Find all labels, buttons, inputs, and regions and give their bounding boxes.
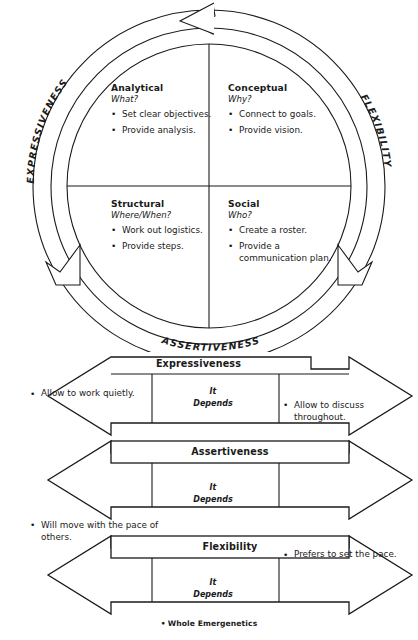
band-label-assertiveness: Assertiveness	[111, 446, 349, 457]
it-depends-line2: Depends	[152, 589, 274, 601]
it-depends-line2: Depends	[152, 398, 274, 410]
quadrant-title: Social	[228, 198, 336, 210]
arc-label-flexibility: FLEXIBILITY	[358, 92, 393, 169]
quadrant-item: Set clear objectives.	[111, 109, 219, 121]
quadrant-item: Provide a communication plan.	[228, 241, 336, 264]
quadrant-item: Provide steps.	[111, 241, 219, 253]
quadrant-question: Where/When?	[111, 210, 219, 221]
quadrant-structural: Structural Where/When? Work out logistic…	[111, 198, 219, 253]
band-cell-expressiveness-center: It Depends	[152, 386, 274, 410]
circle-model: EXPRESSIVENESS FLEXIBILITY ASSERTIVENESS…	[0, 0, 418, 352]
it-depends-line1: It	[152, 577, 274, 589]
quadrant-item: Create a roster.	[228, 225, 336, 237]
footnote-bullet-icon: •	[161, 619, 166, 628]
arrowhead-bottom-left	[46, 245, 80, 285]
arc-label-expressiveness: EXPRESSIVENESS	[25, 77, 70, 184]
band-cell-assertiveness-right: Prefers to set the pace.	[283, 549, 416, 561]
band-cell-expressiveness-right: Allow to discuss throughout.	[283, 400, 406, 424]
quadrant-question: Who?	[228, 210, 336, 221]
quadrant-title: Analytical	[111, 82, 219, 94]
emergenetics-diagram: EXPRESSIVENESS FLEXIBILITY ASSERTIVENESS…	[0, 0, 418, 640]
it-depends-line1: It	[152, 482, 274, 494]
band-cell-assertiveness-center: It Depends	[152, 482, 274, 506]
quadrant-item: Connect to goals.	[228, 109, 336, 121]
quadrant-item: Provide vision.	[228, 125, 336, 137]
quadrant-item-list: Set clear objectives. Provide analysis.	[111, 109, 219, 137]
quadrant-item-list: Create a roster. Provide a communication…	[228, 225, 336, 264]
band-cell-expressiveness-left: Allow to work quietly.	[30, 388, 163, 400]
footnote-text: Whole Emergenetics	[168, 619, 258, 628]
it-depends-line2: Depends	[152, 494, 274, 506]
band-cell-flexibility-center: It Depends	[152, 577, 274, 601]
circle-model-graphic: EXPRESSIVENESS FLEXIBILITY ASSERTIVENESS	[0, 0, 418, 352]
quadrant-social: Social Who? Create a roster. Provide a c…	[228, 198, 336, 265]
band-label-expressiveness: Expressiveness	[48, 358, 349, 369]
quadrant-question: Why?	[228, 94, 336, 105]
arrowhead-bottom-right	[338, 245, 372, 285]
quadrant-question: What?	[111, 94, 219, 105]
quadrant-analytical: Analytical What? Set clear objectives. P…	[111, 82, 219, 137]
quadrant-item-list: Work out logistics. Provide steps.	[111, 225, 219, 253]
band-cell-assertiveness-left: Will move with the pace of others.	[30, 520, 163, 544]
quadrant-item: Work out logistics.	[111, 225, 219, 237]
arc-label-assertiveness: ASSERTIVENESS	[160, 334, 262, 352]
quadrant-title: Conceptual	[228, 82, 336, 94]
footnote: •Whole Emergenetics	[0, 619, 418, 628]
quadrant-title: Structural	[111, 198, 219, 210]
quadrant-item: Provide analysis.	[111, 125, 219, 137]
it-depends-line1: It	[152, 386, 274, 398]
quadrant-conceptual: Conceptual Why? Connect to goals. Provid…	[228, 82, 336, 137]
quadrant-item-list: Connect to goals. Provide vision.	[228, 109, 336, 137]
